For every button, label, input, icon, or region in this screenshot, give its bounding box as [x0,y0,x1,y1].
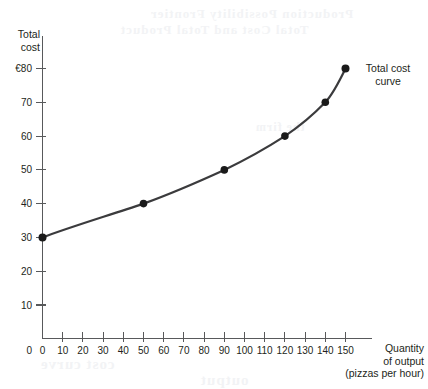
y-tick-label-80: €80 [2,63,32,74]
x-axis-title: Quantity of output (pizzas per hour) [300,342,424,380]
curve-annotation-line-1: Total cost [350,62,426,75]
x-axis-title-line-2: of output [383,355,424,367]
y-axis-title-line-1: Total [18,28,40,40]
curve-annotation-label: Total cost curve [350,62,426,87]
data-points [39,65,350,242]
x-axis-title-line-3: (pizzas per hour) [345,367,424,379]
data-point [221,166,229,174]
y-axis-ticks [36,69,46,306]
y-tick-label-70: 70 [2,97,32,108]
data-point [342,65,350,73]
curve-annotation-line-2: curve [350,75,426,88]
y-tick-label-50: 50 [2,164,32,175]
y-axis-title-line-2: cost [21,41,40,53]
data-point [281,132,289,140]
data-point [140,200,148,208]
y-tick-label-30: 30 [2,232,32,243]
data-point [322,99,330,107]
total-cost-curve [43,69,346,238]
x-axis-ticks [63,332,346,342]
total-cost-chart: Production Possibility Frontier Total Co… [0,0,428,389]
y-axis-title: Total cost [2,28,40,53]
plot-area [0,0,428,389]
data-point [39,233,47,241]
y-tick-label-10: 10 [2,300,32,311]
y-tick-label-20: 20 [2,266,32,277]
y-tick-label-0: 0 [2,345,32,356]
x-axis-title-line-1: Quantity [385,342,424,354]
y-tick-label-40: 40 [2,198,32,209]
y-tick-label-60: 60 [2,131,32,142]
